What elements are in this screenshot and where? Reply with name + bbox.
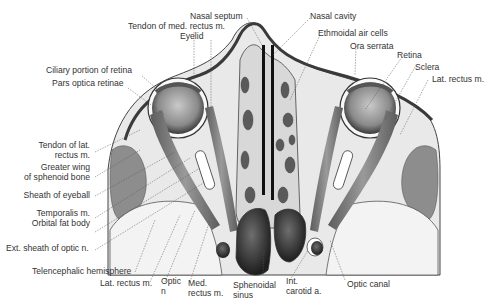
label-optic-n: Optic n — [161, 277, 181, 296]
label-telencephalic: Telencephalic hemisphere — [32, 267, 131, 277]
label-orbital-fat: Orbital fat body — [32, 219, 90, 229]
label-sphenoidal-sinus: Sphenoidal sinus — [233, 281, 276, 300]
int-carotid-left — [216, 242, 230, 258]
nasal-septum — [262, 45, 265, 195]
label-tendon-lat-rectus: Tendon of lat. rectus m. — [38, 141, 90, 160]
label-eyelid: Eyelid — [180, 32, 203, 42]
label-pars-optica: Pars optica retinae — [52, 79, 124, 89]
label-lat-rectus-bottom: Lat. rectus m. — [100, 279, 152, 289]
label-lat-rectus-right: Lat. rectus m. — [432, 75, 484, 85]
label-ciliary-portion: Ciliary portion of retina — [46, 66, 132, 76]
label-med-rectus: Med. rectus m. — [188, 279, 223, 298]
label-retina: Retina — [397, 51, 422, 61]
label-int-carotid: Int. carotid a. — [286, 277, 321, 296]
label-optic-canal: Optic canal — [347, 280, 390, 290]
label-ext-sheath-optic: Ext. sheath of optic n. — [6, 244, 89, 254]
sphenoidal-sinus-left — [236, 208, 271, 275]
label-sheath-eyeball: Sheath of eyeball — [24, 191, 90, 201]
label-ethmoidal-air-cells: Ethmoidal air cells — [318, 29, 388, 39]
label-nasal-cavity: Nasal cavity — [310, 12, 356, 22]
label-ora-serrata: Ora serrata — [350, 42, 393, 52]
label-sclera: Sclera — [415, 63, 439, 73]
label-greater-wing: Greater wing of sphenoid bone — [24, 163, 90, 182]
label-tendon-med-rectus: Tendon of med. rectus m. — [128, 22, 225, 32]
